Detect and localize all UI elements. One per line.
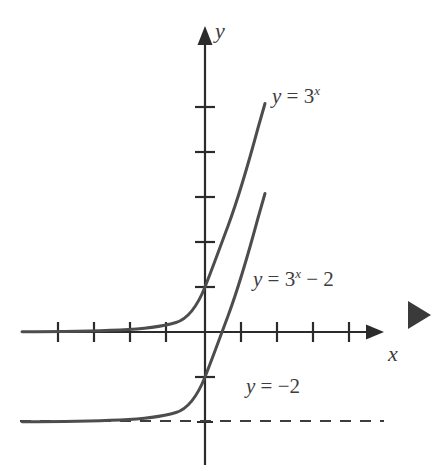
curve-b-label-y: y: [253, 267, 262, 291]
curve-a-label-base: 3: [304, 84, 315, 108]
asymptote-label-y: y: [246, 374, 255, 398]
x-axis-label: x: [388, 343, 398, 365]
curve-b-label-suffix: − 2: [301, 267, 334, 291]
exponential-graph-figure: y = 3x y = 3x − 2 y = −2 y x: [0, 0, 438, 471]
asymptote-label-equals: =: [255, 374, 277, 398]
curve-a-label-y: y: [272, 84, 281, 108]
curve-b-label-equals: =: [262, 267, 284, 291]
curve-label-exponential: y = 3x: [272, 86, 320, 107]
y-axis-group: [195, 26, 215, 465]
x-axis-arrowhead: [366, 325, 384, 340]
asymptote-label: y = −2: [246, 376, 300, 397]
asymptote-label-value: −2: [278, 374, 300, 398]
graph-canvas: [0, 0, 438, 471]
y-axis-arrowhead: [198, 26, 213, 45]
curve-a-label-equals: =: [281, 84, 303, 108]
curve-b-label-base: 3: [285, 267, 296, 291]
curve-a-label-exponent: x: [314, 83, 320, 98]
curve-label-exponential-shifted: y = 3x − 2: [253, 269, 334, 290]
y-axis-label: y: [215, 20, 225, 42]
play-triangle-marker[interactable]: [408, 301, 431, 329]
curve-y-equals-3-to-the-x: [22, 104, 265, 332]
